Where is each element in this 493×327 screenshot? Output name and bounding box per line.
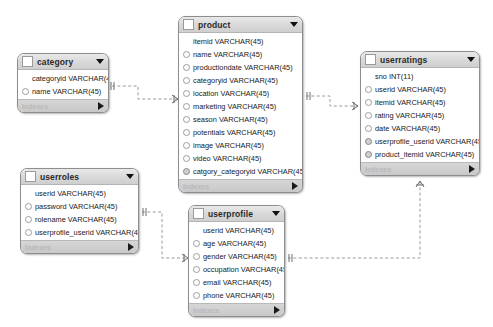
- table-checkbox-icon[interactable]: [193, 208, 204, 219]
- table-header-userratings[interactable]: userratings: [361, 52, 479, 68]
- column-row[interactable]: product_itemid VARCHAR(45): [361, 148, 479, 161]
- column-row[interactable]: potentials VARCHAR(45): [179, 126, 302, 139]
- column-row[interactable]: gender VARCHAR(45): [189, 250, 284, 263]
- column-row[interactable]: phone VARCHAR(45): [189, 289, 284, 302]
- column-row[interactable]: occupation VARCHAR(45): [189, 263, 284, 276]
- indexes-label: Indexes: [365, 166, 469, 173]
- triangle-right-icon[interactable]: [128, 243, 134, 251]
- table-header-userprofile[interactable]: userprofile: [189, 206, 284, 222]
- column-label: categoryid VARCHAR(45): [32, 74, 109, 83]
- column-row[interactable]: location VARCHAR(45): [179, 87, 302, 100]
- column-icon: [193, 253, 200, 260]
- table-header-category[interactable]: category: [18, 54, 108, 70]
- column-row[interactable]: userid VARCHAR(45): [361, 83, 479, 96]
- table-header-userroles[interactable]: userroles: [21, 169, 138, 185]
- column-icon: [183, 51, 190, 58]
- column-row[interactable]: marketing VARCHAR(45): [179, 100, 302, 113]
- foreign-key-icon: [365, 151, 372, 158]
- table-userroles[interactable]: userroles userid VARCHAR(45) password VA…: [20, 168, 139, 254]
- er-diagram-canvas[interactable]: category categoryid VARCHAR(45) name VAR…: [0, 0, 493, 327]
- triangle-down-icon[interactable]: [290, 22, 298, 27]
- triangle-down-icon[interactable]: [126, 174, 134, 179]
- triangle-down-icon[interactable]: [467, 57, 475, 62]
- triangle-down-icon[interactable]: [96, 59, 104, 64]
- triangle-right-icon[interactable]: [469, 165, 475, 173]
- column-row[interactable]: video VARCHAR(45): [179, 152, 302, 165]
- table-footer-category[interactable]: Indexes: [18, 99, 108, 112]
- column-label: date VARCHAR(45): [375, 124, 440, 133]
- column-icon: [183, 129, 190, 136]
- column-label: productiondate VARCHAR(45): [193, 63, 293, 72]
- column-label: image VARCHAR(45): [193, 141, 264, 150]
- table-header-product[interactable]: product: [179, 17, 302, 33]
- table-footer-userprofile[interactable]: Indexes: [189, 303, 284, 316]
- indexes-label: Indexes: [25, 244, 128, 251]
- column-icon: [183, 116, 190, 123]
- column-row[interactable]: categoryid VARCHAR(45): [179, 74, 302, 87]
- column-icon: [183, 103, 190, 110]
- triangle-down-icon[interactable]: [272, 211, 280, 216]
- table-columns-product: itemid VARCHAR(45) name VARCHAR(45) prod…: [179, 33, 302, 179]
- primary-key-icon: [193, 227, 200, 234]
- column-row[interactable]: catgory_categoryid VARCHAR(45): [179, 165, 302, 178]
- table-title-category: category: [37, 57, 93, 67]
- column-row[interactable]: email VARCHAR(45): [189, 276, 284, 289]
- primary-key-icon: [25, 190, 32, 197]
- table-checkbox-icon[interactable]: [25, 171, 36, 182]
- column-label: phone VARCHAR(45): [203, 291, 274, 300]
- column-row[interactable]: season VARCHAR(45): [179, 113, 302, 126]
- column-row[interactable]: userid VARCHAR(45): [21, 187, 138, 200]
- column-row[interactable]: password VARCHAR(45): [21, 200, 138, 213]
- column-row[interactable]: age VARCHAR(45): [189, 237, 284, 250]
- table-checkbox-icon[interactable]: [22, 56, 33, 67]
- column-label: product_itemid VARCHAR(45): [375, 150, 474, 159]
- table-checkbox-icon[interactable]: [183, 19, 194, 30]
- column-icon: [365, 112, 372, 119]
- indexes-label: Indexes: [193, 307, 274, 314]
- column-label: itemid VARCHAR(45): [375, 98, 446, 107]
- column-label: marketing VARCHAR(45): [193, 102, 276, 111]
- column-label: userprofile_userid VARCHAR(45): [375, 137, 480, 146]
- table-category[interactable]: category categoryid VARCHAR(45) name VAR…: [17, 53, 109, 113]
- column-row[interactable]: itemid VARCHAR(45): [179, 35, 302, 48]
- table-footer-userratings[interactable]: Indexes: [361, 162, 479, 175]
- column-row[interactable]: categoryid VARCHAR(45): [18, 72, 108, 85]
- triangle-right-icon[interactable]: [274, 306, 280, 314]
- table-checkbox-icon[interactable]: [365, 54, 376, 65]
- column-label: userid VARCHAR(45): [35, 189, 106, 198]
- column-label: categoryid VARCHAR(45): [193, 76, 278, 85]
- table-columns-userratings: sno INT(11) userid VARCHAR(45) itemid VA…: [361, 68, 479, 162]
- column-icon: [365, 125, 372, 132]
- table-userprofile[interactable]: userprofile userid VARCHAR(45) age VARCH…: [188, 205, 285, 317]
- column-icon: [22, 88, 29, 95]
- column-label: season VARCHAR(45): [193, 115, 268, 124]
- table-title-userroles: userroles: [40, 172, 123, 182]
- column-row[interactable]: userprofile_userid VARCHAR(45): [21, 226, 138, 239]
- column-row[interactable]: itemid VARCHAR(45): [361, 96, 479, 109]
- column-icon: [193, 266, 200, 273]
- column-icon: [183, 155, 190, 162]
- table-footer-product[interactable]: Indexes: [179, 179, 302, 192]
- primary-key-icon: [183, 38, 190, 45]
- column-label: itemid VARCHAR(45): [193, 37, 264, 46]
- connector-product-userratings: [306, 96, 358, 106]
- column-row[interactable]: name VARCHAR(45): [18, 85, 108, 98]
- column-icon: [25, 216, 32, 223]
- triangle-right-icon[interactable]: [98, 102, 104, 110]
- table-userratings[interactable]: userratings sno INT(11) userid VARCHAR(4…: [360, 51, 480, 176]
- column-row[interactable]: name VARCHAR(45): [179, 48, 302, 61]
- column-row[interactable]: sno INT(11): [361, 70, 479, 83]
- column-row[interactable]: productiondate VARCHAR(45): [179, 61, 302, 74]
- column-row[interactable]: userid VARCHAR(45): [189, 224, 284, 237]
- column-row[interactable]: rolename VARCHAR(45): [21, 213, 138, 226]
- triangle-right-icon[interactable]: [292, 182, 298, 190]
- column-icon: [183, 90, 190, 97]
- connector-userroles-userprofile: [142, 212, 188, 258]
- column-row[interactable]: date VARCHAR(45): [361, 122, 479, 135]
- column-row[interactable]: image VARCHAR(45): [179, 139, 302, 152]
- table-title-userprofile: userprofile: [208, 209, 269, 219]
- column-row[interactable]: userprofile_userid VARCHAR(45): [361, 135, 479, 148]
- table-product[interactable]: product itemid VARCHAR(45) name VARCHAR(…: [178, 16, 303, 193]
- table-footer-userroles[interactable]: Indexes: [21, 240, 138, 253]
- column-row[interactable]: rating VARCHAR(45): [361, 109, 479, 122]
